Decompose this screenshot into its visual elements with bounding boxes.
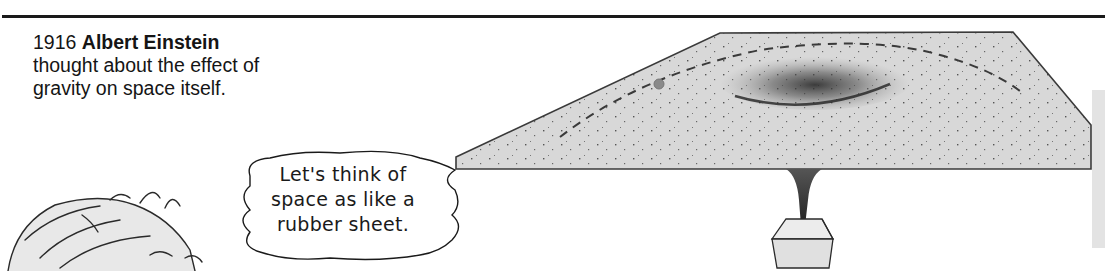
einstein-figure xyxy=(8,193,202,271)
small-ball-icon xyxy=(654,79,664,89)
rubber-sheet-illustration xyxy=(0,0,1105,271)
speech-line-1: Let's think of xyxy=(238,162,448,187)
weight-block-icon xyxy=(772,219,833,268)
speech-line-3: rubber sheet. xyxy=(238,212,448,237)
side-strip xyxy=(1092,90,1105,248)
gravity-well xyxy=(720,54,910,110)
speech-bubble: Let's think of space as like a rubber sh… xyxy=(238,162,448,237)
speech-line-2: space as like a xyxy=(238,187,448,212)
sheet-funnel xyxy=(786,169,822,226)
